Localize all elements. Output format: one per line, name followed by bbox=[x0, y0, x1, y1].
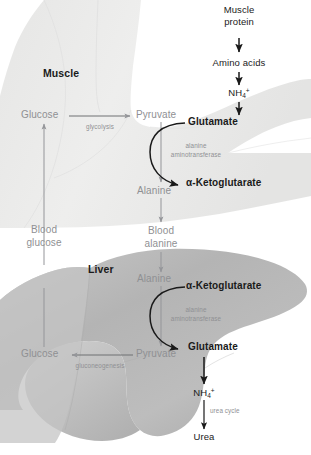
muscle-alanine-label: Alanine bbox=[137, 186, 171, 197]
blood-alanine-label-line1: Blood bbox=[148, 226, 174, 237]
muscle-enzyme-label-line1: alanine bbox=[185, 143, 206, 150]
blood-glucose-label-line1: Blood bbox=[31, 225, 57, 236]
liver-glucose-label: Glucose bbox=[21, 349, 58, 360]
urea-cycle-label: urea cycle bbox=[210, 408, 240, 415]
muscle-ammonium-superscript: + bbox=[246, 87, 250, 94]
liver-pyruvate-label: Pyruvate bbox=[136, 349, 176, 360]
muscle-protein-label-line2: protein bbox=[224, 17, 254, 27]
liver-ammonium-superscript: + bbox=[211, 387, 215, 394]
liver-ammonium-formula: NH bbox=[193, 387, 207, 398]
muscle-organ-label: Muscle bbox=[43, 68, 79, 79]
liver-organ-label: Liver bbox=[88, 264, 114, 275]
muscle-ketoglutarate-label: α-Ketoglutarate bbox=[186, 178, 261, 189]
muscle-protein-label-line1: Muscle bbox=[224, 5, 255, 15]
muscle-pyruvate-label: Pyruvate bbox=[136, 110, 176, 121]
blood-alanine-label-line2: alanine bbox=[145, 239, 178, 250]
blood-glucose-label-line2: glucose bbox=[26, 238, 61, 249]
liver-glutamate-label: Glutamate bbox=[188, 342, 238, 353]
gluconeogenesis-label: gluconeogenesis bbox=[76, 363, 125, 370]
liver-enzyme-label-line2: aminotransferase bbox=[171, 316, 221, 323]
liver-ammonium-label: NH4+ bbox=[193, 388, 215, 400]
muscle-ammonium-label: NH4+ bbox=[228, 88, 250, 100]
liver-enzyme-label-line1: alanine bbox=[185, 307, 206, 314]
muscle-enzyme-label-line2: aminotransferase bbox=[171, 152, 221, 159]
muscle-glucose-label: Glucose bbox=[21, 110, 58, 121]
glycolysis-label: glycolysis bbox=[86, 124, 114, 131]
liver-ketoglutarate-label: α-Ketoglutarate bbox=[186, 281, 261, 292]
muscle-glutamate-label: Glutamate bbox=[188, 117, 238, 128]
amino-acids-label: Amino acids bbox=[213, 58, 266, 68]
liver-alanine-label: Alanine bbox=[137, 274, 171, 285]
figure-canvas: Muscle Muscle protein Amino acids NH4+ G… bbox=[0, 0, 311, 455]
muscle-ammonium-formula: NH bbox=[228, 87, 242, 98]
urea-label: Urea bbox=[194, 432, 215, 442]
